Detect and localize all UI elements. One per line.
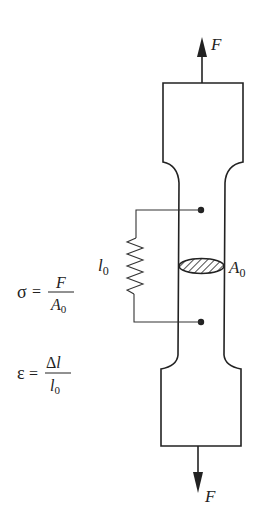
area-label: A0 [228, 258, 245, 280]
spring-icon [127, 238, 143, 294]
svg-text:F: F [55, 274, 66, 291]
svg-text:=: = [29, 365, 38, 382]
svg-text:Δl: Δl [46, 354, 61, 371]
force-arrow-top [197, 37, 207, 83]
stress-formula: σ = F A0 [17, 274, 74, 315]
svg-text:l0: l0 [50, 377, 60, 396]
gauge-length-label: l0 [98, 256, 109, 278]
svg-text:ε: ε [17, 363, 25, 383]
force-arrow-bottom [193, 446, 203, 493]
force-label-bottom: F [204, 487, 216, 506]
tensile-specimen-diagram: F A0 l0 F σ = F A0 ε = Δl [0, 0, 267, 517]
force-label-top: F [210, 35, 222, 54]
svg-text:A0: A0 [50, 296, 67, 315]
cross-section-area [179, 259, 224, 274]
svg-text:σ: σ [17, 282, 27, 302]
svg-text:=: = [32, 283, 41, 300]
strain-formula: ε = Δl l0 [17, 354, 71, 396]
